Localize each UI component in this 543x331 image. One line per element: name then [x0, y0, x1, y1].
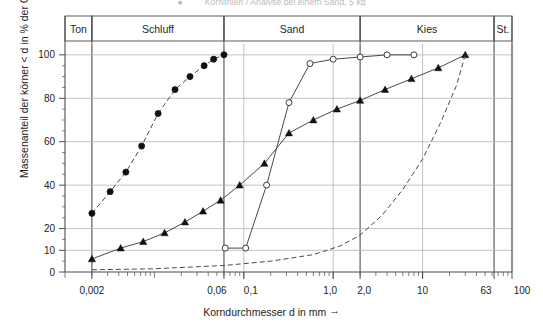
series-1-marker-11 — [333, 106, 340, 112]
x-tick-label-4: 2,0 — [357, 285, 371, 296]
series-0-marker-8 — [211, 56, 217, 62]
soil-band-label-1: Schluff — [142, 23, 174, 35]
x-tick-label-5: 10 — [417, 285, 429, 296]
y-tick-label-4: 60 — [44, 136, 56, 147]
series-1-marker-5 — [199, 208, 206, 214]
series-0-marker-6 — [187, 73, 193, 79]
series-0-marker-5 — [172, 87, 178, 93]
y-axis-ticks — [59, 55, 65, 272]
x-tick-label-7: 100 — [514, 285, 531, 296]
series-1-marker-15 — [435, 64, 442, 70]
series-0-marker-1 — [107, 189, 113, 195]
series-2-marker-0 — [222, 245, 228, 251]
series-0-marker-0 — [89, 210, 95, 216]
soil-band-labels: TonSchluffSandKiesSt. — [70, 23, 509, 35]
x-tick-label-0: 0,002 — [79, 285, 104, 296]
series-0-marker-3 — [139, 143, 145, 149]
series-2-marker-6 — [357, 54, 363, 60]
figure-root: ●Kornlinien / Analyse bei einem Sand, 5 … — [0, 0, 543, 331]
series-line-2 — [225, 55, 414, 248]
y-tick-labels: 01020406080100 — [38, 49, 55, 277]
series-2-marker-4 — [307, 61, 313, 67]
series-2-marker-7 — [384, 52, 390, 58]
plot-frame — [65, 16, 512, 272]
series-1-marker-3 — [161, 229, 168, 235]
series-2-marker-1 — [243, 245, 249, 251]
series-1-marker-9 — [285, 129, 292, 135]
y-tick-label-2: 20 — [44, 223, 56, 234]
soil-band-label-2: Sand — [280, 23, 305, 35]
series-0-marker-4 — [155, 110, 161, 116]
series-0-marker-2 — [123, 169, 129, 175]
y-tick-label-3: 40 — [44, 180, 56, 191]
plot-area: TonSchluffSandKiesSt. 01020406080100 0,0… — [0, 0, 543, 331]
x-tick-label-3: 1,0 — [323, 285, 337, 296]
x-tick-label-1: 0,06 — [207, 285, 227, 296]
grain-size-distribution-chart: TonSchluffSandKiesSt. 01020406080100 0,0… — [0, 0, 543, 331]
series-2-marker-5 — [330, 56, 336, 62]
soil-band-label-4: St. — [497, 23, 510, 35]
x-tick-label-2: 0,1 — [244, 285, 258, 296]
minor-ticks — [65, 272, 512, 279]
series-2-marker-2 — [264, 182, 270, 188]
series-0-marker-9 — [221, 52, 227, 58]
y-tick-label-6: 100 — [38, 49, 55, 60]
series-1-marker-4 — [181, 218, 188, 224]
series-line-3 — [92, 55, 465, 270]
grid-lines — [65, 16, 512, 272]
series-1-marker-13 — [381, 86, 388, 92]
series-1-marker-0 — [88, 255, 95, 261]
x-tick-label-6: 63 — [480, 285, 492, 296]
soil-band-label-0: Ton — [70, 23, 87, 35]
data-series-group — [88, 51, 469, 270]
series-2-marker-3 — [286, 100, 292, 106]
series-1-marker-2 — [140, 238, 147, 244]
y-tick-label-1: 10 — [44, 245, 56, 256]
x-tick-labels: 0,0020,060,11,02,01063100 — [79, 285, 530, 296]
y-tick-label-0: 0 — [49, 267, 55, 278]
series-1-marker-10 — [310, 116, 317, 122]
series-0-marker-7 — [201, 63, 207, 69]
series-2-marker-8 — [411, 52, 417, 58]
y-tick-label-5: 80 — [44, 93, 56, 104]
series-1-marker-12 — [357, 97, 364, 103]
soil-band-label-3: Kies — [417, 23, 437, 35]
series-1-marker-14 — [408, 75, 415, 81]
